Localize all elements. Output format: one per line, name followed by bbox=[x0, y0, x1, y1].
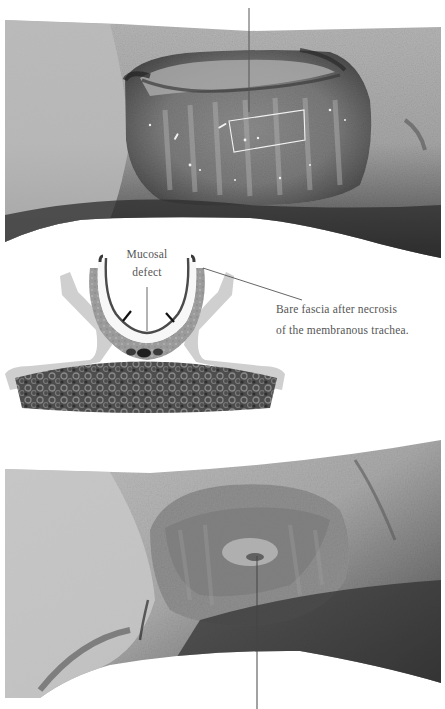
bottom-wound-photo bbox=[0, 0, 445, 709]
